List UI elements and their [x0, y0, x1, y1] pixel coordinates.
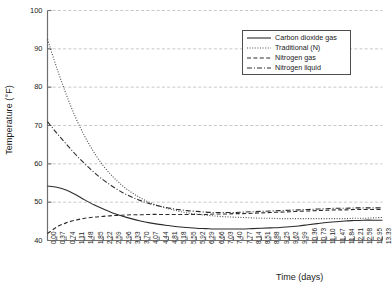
- x-tick-label: 10.36: [311, 228, 318, 244]
- x-tick-label: 2.59: [115, 231, 122, 243]
- x-tick-label: 3.33: [134, 231, 141, 243]
- x-tick-label: 10.73: [320, 228, 327, 244]
- x-tick-label: 11.84: [348, 228, 355, 244]
- legend-label: Carbon dioxide gas: [275, 33, 337, 43]
- x-tick-label: 4.81: [171, 231, 178, 243]
- chart-container: Temperature (°F) Time (days) Carbon diox…: [0, 0, 392, 291]
- x-tick-label: 9.25: [283, 231, 290, 243]
- x-tick-label: 12.21: [357, 228, 364, 244]
- x-tick-label: 13.33: [385, 228, 392, 244]
- x-tick-label: 7.03: [227, 231, 234, 243]
- legend-item-nitrogen-gas: Nitrogen gas: [246, 53, 347, 63]
- legend-swatch-dotted-icon: [246, 43, 272, 53]
- x-tick-label: 4.07: [152, 231, 159, 243]
- x-tick-label: 1.11: [78, 232, 85, 244]
- x-tick-label: 0.37: [59, 231, 66, 243]
- x-tick-label: 0.74: [69, 231, 76, 243]
- legend-label: Traditional (N): [275, 43, 320, 53]
- y-tick-label: 90: [21, 44, 43, 53]
- x-axis-label: Time (days): [276, 272, 323, 282]
- x-tick-label: 2.22: [106, 231, 113, 243]
- x-tick-label: 9.99: [301, 231, 308, 243]
- x-tick-label: 1.85: [97, 231, 104, 243]
- x-tick-label: 4.44: [162, 231, 169, 243]
- x-tick-label: 11.10: [329, 228, 336, 244]
- legend-item-traditional-n: Traditional (N): [246, 43, 347, 53]
- x-tick-label: 6.29: [208, 231, 215, 243]
- legend-swatch-solid-icon: [246, 33, 272, 43]
- x-tick-label: 2.96: [125, 231, 132, 243]
- x-tick-label: 8.14: [255, 231, 262, 243]
- x-tick-label: 3.70: [143, 231, 150, 243]
- x-tick-label: 6.66: [218, 231, 225, 243]
- legend-swatch-dashdot-icon: [246, 63, 272, 73]
- x-tick-label: 7.77: [246, 231, 253, 243]
- y-tick-label: 80: [21, 82, 43, 91]
- x-tick-label: 5.92: [199, 231, 206, 243]
- y-axis-label: Temperature (°F): [0, 0, 18, 240]
- legend: Carbon dioxide gas Traditional (N) Nitro…: [242, 30, 351, 75]
- y-tick-label: 40: [21, 236, 43, 245]
- x-tick-label: 1.48: [87, 231, 94, 243]
- x-tick-label: 12.95: [376, 228, 383, 244]
- y-tick-label: 60: [21, 159, 43, 168]
- legend-item-nitrogen-liquid: Nitrogen liquid: [246, 63, 347, 73]
- series-line: [48, 186, 383, 229]
- x-tick-label: 5.18: [180, 231, 187, 243]
- legend-label: Nitrogen gas: [275, 53, 316, 63]
- legend-label: Nitrogen liquid: [275, 63, 321, 73]
- legend-swatch-dashed-icon: [246, 53, 272, 63]
- y-tick-label: 100: [21, 6, 43, 15]
- x-tick-label: 7.40: [236, 231, 243, 243]
- x-tick-label: 11.47: [339, 228, 346, 244]
- x-tick-label: 9.62: [292, 231, 299, 243]
- x-tick-label: 12.58: [366, 228, 373, 244]
- x-tick-label: 0.00: [50, 231, 57, 243]
- y-axis-label-text: Temperature (°F): [4, 85, 14, 155]
- x-tick-label: 8.51: [264, 231, 271, 243]
- x-tick-label: 8.88: [273, 231, 280, 243]
- y-tick-label: 70: [21, 121, 43, 130]
- series-line: [48, 122, 383, 213]
- x-tick-label: 5.55: [190, 231, 197, 243]
- legend-item-carbon-dioxide-gas: Carbon dioxide gas: [246, 33, 347, 43]
- y-tick-label: 50: [21, 197, 43, 206]
